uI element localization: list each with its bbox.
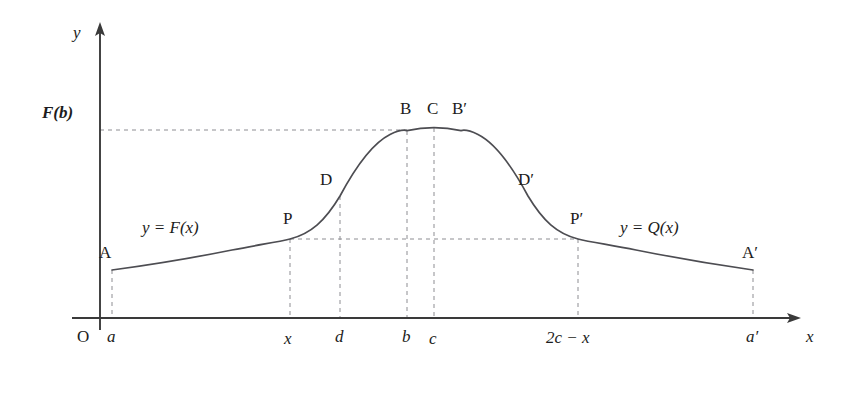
point-label-P: P bbox=[283, 210, 292, 227]
curve-label-right-branch: y = Q(x) bbox=[620, 219, 679, 236]
point-label-A-prime: A′ bbox=[742, 244, 758, 261]
point-label-D-prime: D′ bbox=[518, 171, 534, 188]
origin-label: O bbox=[77, 328, 89, 345]
x-tick-label-b: b bbox=[402, 328, 411, 345]
point-label-C: C bbox=[427, 100, 438, 117]
y-axis-label: y bbox=[73, 24, 81, 41]
x-tick-label-a-prime: a′ bbox=[746, 328, 758, 345]
axis-group bbox=[72, 22, 801, 330]
figure-drawing-layer bbox=[0, 0, 845, 401]
point-label-B-prime: B′ bbox=[452, 100, 467, 117]
x-tick-label-a: a bbox=[107, 328, 116, 345]
x-tick-label-d: d bbox=[335, 328, 344, 345]
math-figure-canvas: y x O F(b) y = F(x) y = Q(x) A P D B C B… bbox=[0, 0, 845, 401]
y-value-label-fb: F(b) bbox=[42, 104, 73, 121]
point-label-D: D bbox=[320, 171, 332, 188]
curve-label-left-branch: y = F(x) bbox=[142, 219, 199, 236]
point-label-P-prime: P′ bbox=[570, 210, 583, 227]
point-label-A: A bbox=[99, 244, 111, 261]
x-tick-label-2c-x: 2c − x bbox=[546, 329, 590, 346]
x-tick-label-x: x bbox=[284, 330, 292, 347]
point-label-B: B bbox=[400, 100, 411, 117]
x-axis-label: x bbox=[806, 328, 814, 345]
bell-curve-path bbox=[112, 128, 753, 270]
x-tick-label-c: c bbox=[429, 330, 437, 347]
